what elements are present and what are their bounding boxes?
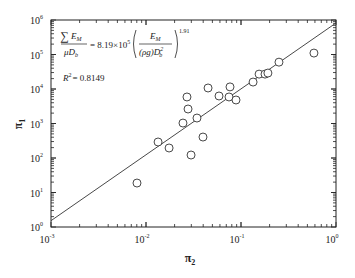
x-tick-label: 10-1 [230, 233, 245, 245]
data-point [133, 179, 141, 187]
y-axis-label: π1 [11, 119, 27, 130]
svg-text:∑: ∑ [60, 29, 69, 43]
scatter-chart: 10-310-210-1100100101102103104105106 π2 … [0, 0, 355, 278]
axes [51, 20, 336, 227]
data-points [133, 49, 318, 187]
data-point [249, 78, 257, 86]
data-point [204, 84, 212, 92]
data-point [215, 92, 223, 100]
x-axis-label: π2 [185, 251, 196, 267]
data-point [193, 114, 201, 122]
y-tick-label: 103 [30, 118, 43, 130]
data-point [154, 138, 162, 146]
y-tick-label: 104 [30, 83, 43, 95]
tick-labels: 10-310-210-1100100101102103104105106 [30, 14, 339, 245]
data-point [184, 105, 192, 113]
data-point [199, 133, 207, 141]
svg-text:π2: π2 [185, 251, 196, 267]
svg-text:(ρg)D2b: (ρg)D2b [139, 46, 163, 58]
regression-line [51, 23, 336, 221]
data-point [183, 93, 191, 101]
data-point [275, 58, 283, 66]
x-tick-label: 100 [326, 233, 339, 245]
data-point [310, 49, 318, 57]
svg-text:μDb: μDb [63, 47, 78, 58]
svg-text:1.91: 1.91 [179, 28, 190, 34]
data-point [179, 119, 187, 127]
plot-frame [51, 20, 336, 227]
data-point [232, 96, 240, 104]
svg-text:EM: EM [149, 31, 162, 42]
data-point [226, 83, 234, 91]
y-tick-label: 100 [30, 221, 43, 233]
data-point [264, 69, 272, 77]
data-point [187, 151, 195, 159]
data-point [165, 144, 173, 152]
x-tick-label: 10-3 [40, 233, 55, 245]
chart-svg: 10-310-210-1100100101102103104105106 π2 … [0, 0, 355, 278]
svg-text:π1: π1 [11, 119, 27, 130]
y-tick-label: 105 [30, 49, 43, 61]
y-tick-label: 101 [30, 187, 43, 199]
y-tick-label: 102 [30, 152, 43, 164]
fit-equation: ∑ EM μDb = 8.19×105 EM (ρg)D2b 1.91 R2= … [60, 28, 190, 83]
y-tick-label: 106 [30, 14, 43, 26]
fit-line [51, 23, 336, 221]
x-tick-label: 10-2 [135, 233, 150, 245]
svg-text:R2= 0.8149: R2= 0.8149 [62, 72, 105, 83]
axis-ticks [51, 20, 336, 227]
svg-text:= 8.19×105: = 8.19×105 [90, 39, 130, 50]
svg-text:EM: EM [70, 31, 83, 42]
